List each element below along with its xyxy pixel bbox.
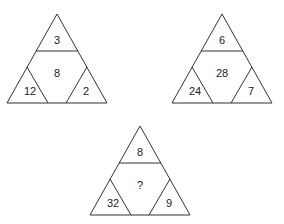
- outer-triangle: [90, 126, 190, 215]
- outer-triangle: [7, 14, 107, 103]
- right-number: 9: [166, 197, 172, 209]
- left-number: 24: [189, 85, 201, 97]
- triangle-1: 3 8 12 2: [7, 14, 107, 103]
- left-number: 32: [107, 197, 119, 209]
- center-unknown: ?: [137, 179, 143, 191]
- left-number: 12: [24, 85, 36, 97]
- top-number: 8: [137, 146, 143, 158]
- top-number: 3: [54, 34, 60, 46]
- top-number: 6: [219, 34, 225, 46]
- outer-triangle: [172, 14, 272, 103]
- number-triangle-puzzle: 3 8 12 2 6 28 24 7 8 ? 32 9: [0, 0, 284, 224]
- center-number: 8: [54, 67, 60, 79]
- right-number: 7: [248, 85, 254, 97]
- center-number: 28: [216, 67, 228, 79]
- triangle-3: 8 ? 32 9: [90, 126, 190, 215]
- triangle-2: 6 28 24 7: [172, 14, 272, 103]
- right-number: 2: [83, 85, 89, 97]
